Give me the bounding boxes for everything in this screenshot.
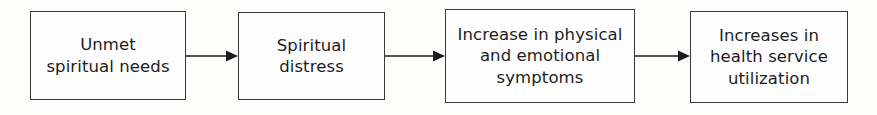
flow-node-label: Spiritual distress — [277, 35, 346, 78]
flow-node-label: Increases in health service utilization — [710, 25, 828, 89]
flow-node-increase-symptoms: Increase in physical and emotional sympt… — [445, 9, 635, 103]
arrow-connector-3 — [635, 49, 690, 63]
flowchart-diagram: Unmet spiritual needs Spiritual distress… — [0, 0, 877, 115]
flow-node-unmet-spiritual-needs: Unmet spiritual needs — [30, 11, 186, 100]
flow-node-spiritual-distress: Spiritual distress — [238, 12, 385, 100]
arrow-connector-1 — [186, 49, 238, 63]
flow-node-label: Increase in physical and emotional sympt… — [457, 24, 622, 88]
flow-node-label: Unmet spiritual needs — [46, 34, 169, 77]
arrow-connector-2 — [385, 49, 445, 63]
flow-node-increase-utilization: Increases in health service utilization — [690, 11, 848, 103]
